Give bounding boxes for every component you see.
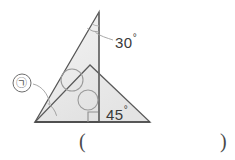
degree-symbol-bottom: ° [124, 104, 128, 115]
circled-marker-label: ㉠ [16, 78, 27, 89]
angle-label-30: 30° [115, 34, 137, 50]
angle-label-30-value: 30 [115, 34, 132, 51]
geometry-figure: 30° 45° ㉠ ( ) [0, 0, 235, 160]
geometry-canvas [0, 0, 235, 160]
degree-symbol-top: ° [133, 32, 137, 43]
angle-label-45-value: 45 [106, 106, 123, 123]
answer-paren-close: ) [220, 131, 227, 151]
angle-label-45: 45° [106, 106, 128, 122]
answer-paren-open: ( [79, 131, 86, 151]
